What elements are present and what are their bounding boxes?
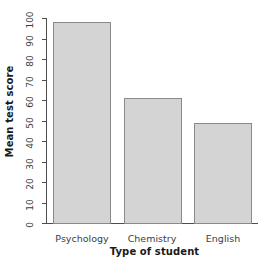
x-axis-title-text: Type of student — [110, 246, 199, 257]
bar — [194, 123, 252, 224]
x-axis-tick-label-text: Psychology — [55, 233, 108, 244]
bar — [53, 22, 111, 224]
bar — [124, 98, 182, 224]
x-axis-title: Type of student — [46, 246, 263, 257]
x-axis-tick-label-text: English — [206, 233, 240, 244]
bar-chart: Mean test score 0102030405060708090100 P… — [0, 0, 263, 274]
x-axis-tick-label: English — [188, 233, 258, 245]
x-axis-tick-label-text: Chemistry — [128, 233, 177, 244]
x-axis-tick-label: Chemistry — [117, 233, 187, 245]
x-axis-tick-label: Psychology — [47, 233, 117, 245]
